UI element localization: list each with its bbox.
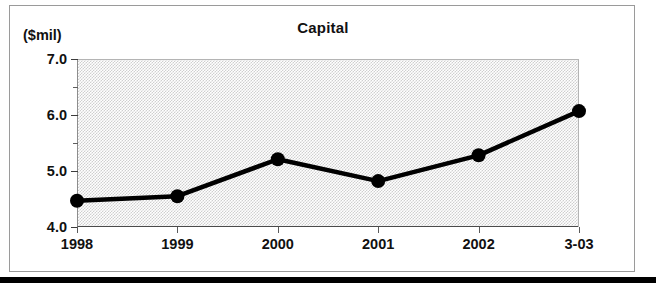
chart-title: Capital [10, 19, 636, 36]
x-axis-tick-mark [177, 227, 178, 233]
x-axis-tick-label: 2000 [243, 237, 313, 252]
x-axis-tick-mark [479, 227, 480, 233]
y-axis-minor-tick-mark [73, 87, 78, 88]
y-axis-tick-mark [71, 171, 78, 172]
y-axis-tick-mark [71, 59, 78, 60]
plot-right-border [578, 59, 579, 227]
plot-area [77, 59, 579, 227]
scan-bottom-bar [0, 277, 656, 283]
x-axis-tick-label: 3-03 [544, 237, 614, 252]
plot-top-border [77, 59, 579, 60]
y-axis-tick-label: 4.0 [27, 220, 67, 235]
x-axis-tick-label: 1999 [142, 237, 212, 252]
x-axis-tick-mark [378, 227, 379, 233]
y-axis-minor-tick-mark [73, 143, 78, 144]
y-axis-tick-label: 7.0 [27, 52, 67, 67]
y-axis-tick-label: 6.0 [27, 108, 67, 123]
y-axis-minor-tick-mark [73, 199, 78, 200]
chart-figure-frame: Capital ($mil) 7.06.05.04.0 199819992000… [9, 5, 635, 272]
y-axis-unit-label: ($mil) [23, 27, 62, 43]
x-axis-tick-mark [278, 227, 279, 233]
x-axis-tick-label: 2002 [444, 237, 514, 252]
x-axis-tick-label: 1998 [42, 237, 112, 252]
chart-page: Capital ($mil) 7.06.05.04.0 199819992000… [0, 0, 656, 283]
x-axis-tick-mark [579, 227, 580, 233]
y-axis-tick-mark [71, 115, 78, 116]
x-axis-tick-label: 2001 [343, 237, 413, 252]
x-axis-tick-mark [77, 227, 78, 233]
y-axis-tick-label: 5.0 [27, 164, 67, 179]
